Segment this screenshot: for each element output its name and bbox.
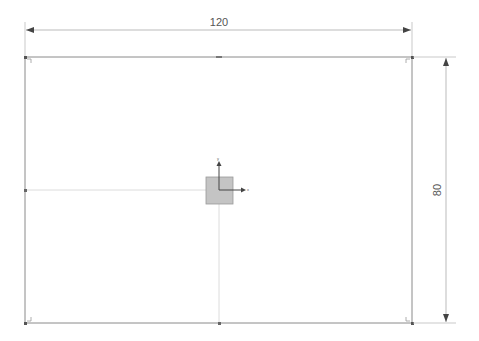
perpendicular-icon (406, 317, 410, 321)
centerlines (25, 190, 219, 323)
perpendicular-icon (27, 317, 31, 321)
y-axis-label: y (217, 156, 219, 161)
corner-point-bottom-left[interactable] (24, 322, 27, 325)
corner-point-bottom-right[interactable] (411, 322, 414, 325)
height-dimension[interactable]: 80 (413, 57, 456, 323)
corner-point-top-right[interactable] (411, 56, 414, 59)
midpoint-bottom[interactable] (218, 322, 221, 325)
corner-point-top-left[interactable] (24, 56, 27, 59)
midpoint-left[interactable] (24, 189, 27, 192)
width-dimension-value[interactable]: 120 (210, 16, 228, 28)
sketch-canvas[interactable]: y x 120 80 (0, 0, 479, 341)
x-axis-label: x (247, 187, 249, 192)
width-dimension[interactable]: 120 (25, 16, 412, 56)
perpendicular-icon (27, 59, 31, 63)
perpendicular-icon (406, 59, 410, 63)
height-dimension-value[interactable]: 80 (431, 184, 443, 196)
